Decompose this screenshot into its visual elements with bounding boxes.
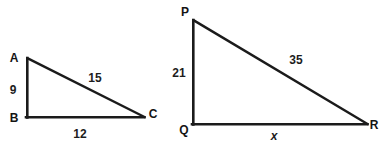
geometry-canvas: A B C 9 15 12 P Q R 21 35 x <box>0 0 382 148</box>
vertex-label-b: B <box>10 111 19 125</box>
vertex-label-c: C <box>149 107 158 121</box>
side-label-bc-12: 12 <box>73 127 87 141</box>
side-label-qr-x: x <box>270 129 279 143</box>
geometry-figure: A B C 9 15 12 P Q R 21 35 x <box>0 0 382 148</box>
side-label-ab-9: 9 <box>10 83 17 97</box>
side-label-pq-21: 21 <box>172 66 186 80</box>
triangle-pqr-side-pr <box>194 20 368 124</box>
side-label-ac-15: 15 <box>88 71 102 85</box>
triangle-pqr: P Q R 21 35 x <box>172 5 378 143</box>
vertex-label-q: Q <box>179 123 188 137</box>
triangle-abc-side-ac <box>28 58 145 117</box>
vertex-label-a: A <box>10 51 19 65</box>
triangle-abc: A B C 9 15 12 <box>10 51 158 141</box>
vertex-label-r: R <box>370 118 379 132</box>
vertex-label-p: P <box>181 5 189 19</box>
side-label-pr-35: 35 <box>289 53 303 67</box>
